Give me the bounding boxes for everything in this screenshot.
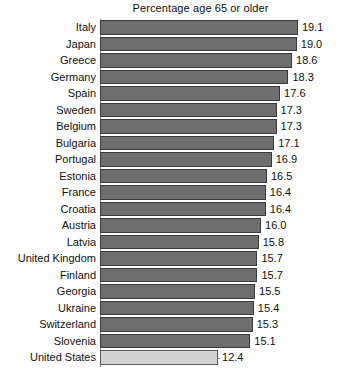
category-label: Portugal [0,151,96,168]
bar [100,235,259,250]
bar-row: Ukraine15.4 [0,300,341,317]
category-label: Spain [0,85,96,102]
bar-row: Georgia15.5 [0,283,341,300]
bar [100,334,250,349]
bar-track: 18.3 [100,69,341,86]
category-label: Finland [0,267,96,284]
bar [100,70,288,85]
bar-track: 16.5 [100,168,341,185]
bar [100,185,266,200]
bar [100,86,280,101]
value-label: 15.7 [261,250,282,267]
category-label: Latvia [0,234,96,251]
category-label: Belgium [0,118,96,135]
bar [100,103,277,118]
category-label: Georgia [0,283,96,300]
bar-row: Spain17.6 [0,85,341,102]
bar-track: 16.9 [100,151,341,168]
bar-track: 16.0 [100,217,341,234]
category-label: Germany [0,69,96,86]
category-label: Austria [0,217,96,234]
value-label: 19.0 [301,36,322,53]
value-label: 15.3 [257,316,278,333]
bar [100,202,266,217]
bar-row: Croatia16.4 [0,201,341,218]
category-label: Bulgaria [0,135,96,152]
value-label: 15.5 [259,283,280,300]
bar-track: 12.4 [100,349,341,366]
bar-track: 17.6 [100,85,341,102]
category-label: Switzerland [0,316,96,333]
value-label: 15.1 [254,333,275,350]
bar [100,152,272,167]
bar-track: 18.6 [100,52,341,69]
bar-row: Japan19.0 [0,36,341,53]
value-label: 18.3 [292,69,313,86]
bar [100,169,267,184]
plot-area: Italy19.1Japan19.0Greece18.6Germany18.3S… [0,19,341,359]
bar-track: 15.8 [100,234,341,251]
category-label: Croatia [0,201,96,218]
value-label: 18.6 [296,52,317,69]
value-label: 16.0 [265,217,286,234]
value-label: 15.8 [263,234,284,251]
bar [100,53,292,68]
bar [100,301,254,316]
category-label: France [0,184,96,201]
bar-row: Latvia15.8 [0,234,341,251]
bar-track: 17.1 [100,135,341,152]
bar [100,37,297,52]
bar-row: United Kingdom15.7 [0,250,341,267]
bar-track: 15.4 [100,300,341,317]
bar-track: 17.3 [100,118,341,135]
value-label: 17.1 [278,135,299,152]
bar-row: Bulgaria17.1 [0,135,341,152]
bar-row: Portugal16.9 [0,151,341,168]
value-label: 16.4 [270,184,291,201]
bar [100,317,253,332]
category-label: Greece [0,52,96,69]
value-label: 15.4 [258,300,279,317]
value-label: 17.6 [284,85,305,102]
bar-track: 15.7 [100,250,341,267]
bar [100,218,261,233]
bar-track: 16.4 [100,184,341,201]
chart-title: Percentage age 65 or older [0,2,341,14]
category-label: Sweden [0,102,96,119]
bar-row: Sweden17.3 [0,102,341,119]
category-label: United States [0,349,96,366]
bar-track: 15.1 [100,333,341,350]
bar-track: 16.4 [100,201,341,218]
bar-track: 17.3 [100,102,341,119]
bar-row: Austria16.0 [0,217,341,234]
value-label: 17.3 [281,102,302,119]
bar-row: Belgium17.3 [0,118,341,135]
bar [100,136,274,151]
bar-track: 15.7 [100,267,341,284]
value-label: 17.3 [281,118,302,135]
bar-chart: Percentage age 65 or older Italy19.1Japa… [0,0,341,376]
value-label: 16.5 [271,168,292,185]
category-label: Ukraine [0,300,96,317]
bar-highlighted [100,350,218,365]
value-label: 15.7 [261,267,282,284]
category-label: Italy [0,19,96,36]
bar [100,251,257,266]
category-label: Japan [0,36,96,53]
value-label: 16.9 [276,151,297,168]
bar [100,284,255,299]
value-label: 12.4 [222,349,243,366]
bar-track: 15.3 [100,316,341,333]
bar [100,20,298,35]
bar-row: Greece18.6 [0,52,341,69]
bar-row: Estonia16.5 [0,168,341,185]
bar-row: France16.4 [0,184,341,201]
value-label: 19.1 [302,19,323,36]
category-label: Estonia [0,168,96,185]
value-label: 16.4 [270,201,291,218]
bar-row: Finland15.7 [0,267,341,284]
bar-row: Slovenia15.1 [0,333,341,350]
bar-row: Germany18.3 [0,69,341,86]
bar [100,119,277,134]
bar-track: 19.1 [100,19,341,36]
